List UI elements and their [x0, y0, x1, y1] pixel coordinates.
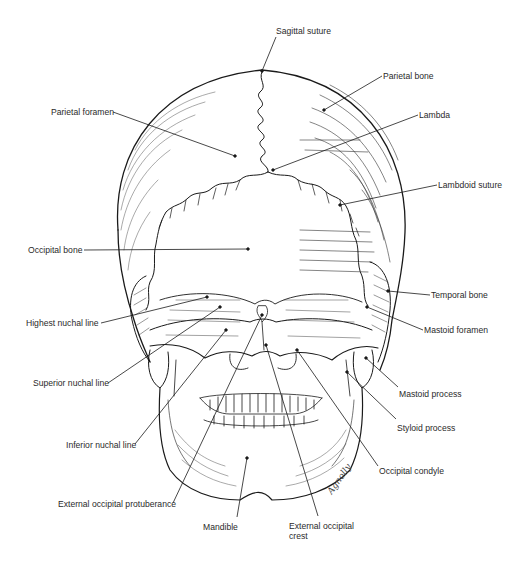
label-lambda: Lambda [419, 110, 450, 120]
leader-lambdoid-suture [340, 185, 437, 205]
anchor-dot-lambda [272, 169, 275, 172]
leader-mastoid-process [366, 358, 398, 387]
anchor-dot-mandible [246, 457, 249, 460]
leader-external-occipital-protuberance [173, 315, 262, 503]
leader-lambda [273, 115, 418, 170]
label-lambdoid-suture: Lambdoid suture [438, 180, 502, 190]
anchor-dot-sagittal-suture [261, 70, 264, 73]
label-parietal-bone: Parietal bone [383, 71, 434, 81]
label-temporal-bone: Temporal bone [431, 290, 488, 300]
sagittal-suture-line [258, 72, 268, 172]
anchor-dot-parietal-bone [323, 109, 326, 112]
anchor-dot-styloid-process [346, 371, 349, 374]
label-highest-nuchal-line: Highest nuchal line [26, 318, 99, 328]
leader-lines [84, 37, 437, 517]
anchor-dot-external-occipital-protuberance [261, 314, 264, 317]
leader-temporal-bone [388, 291, 430, 295]
anchor-dot-highest-nuchal-line [206, 296, 209, 299]
label-mandible: Mandible [203, 522, 238, 532]
label-mastoid-foramen: Mastoid foramen [424, 325, 488, 335]
anchor-dot-superior-nuchal-line [219, 306, 222, 309]
anchor-dot-lambdoid-suture [339, 204, 342, 207]
label-occipital-bone: Occipital bone [28, 245, 82, 255]
label-superior-nuchal-line: Superior nuchal line [33, 378, 109, 388]
highest-nuchal-ridge [160, 294, 362, 304]
leader-highest-nuchal-line [101, 297, 207, 323]
anchor-dot-occipital-bone [247, 248, 250, 251]
right-mastoid-process [353, 350, 373, 388]
leader-inferior-nuchal-line [135, 330, 226, 444]
leader-superior-nuchal-line [108, 307, 220, 383]
leader-sagittal-suture [262, 37, 276, 71]
leader-mandible [237, 458, 247, 517]
anchor-dot-parietal-foramen [234, 155, 237, 158]
anchor-dot-inferior-nuchal-line [225, 329, 228, 332]
lambdoid-suture-line [146, 172, 268, 310]
anchor-dot-temporal-bone [387, 290, 390, 293]
label-occipital-condyle: Occipital condyle [379, 466, 444, 476]
anchor-dot-occipital-condyle [296, 349, 299, 352]
label-inferior-nuchal-line: Inferior nuchal line [66, 440, 136, 450]
label-external-occipital-crest: External occipital crest [289, 521, 359, 541]
leader-external-occipital-crest [266, 345, 318, 516]
cranium-outline [118, 70, 406, 370]
anchor-dot-external-occipital-crest [265, 344, 268, 347]
leader-parietal-foramen [113, 112, 235, 156]
left-mastoid-process [148, 350, 168, 388]
label-parietal-foramen: Parietal foramen [51, 107, 114, 117]
leader-occipital-condyle [297, 350, 378, 466]
leader-occipital-bone [84, 249, 248, 250]
teeth [200, 394, 322, 429]
skull-illustration [0, 0, 529, 563]
label-external-occipital-protuberance: External occipital protuberance [58, 499, 176, 509]
anchor-dot-mastoid-foramen [366, 306, 369, 309]
anchor-dot-mastoid-process [365, 357, 368, 360]
label-mastoid-process: Mastoid process [399, 389, 462, 399]
label-sagittal-suture: Sagittal suture [276, 26, 331, 36]
label-styloid-process: Styloid process [397, 423, 455, 433]
skull-posterior-diagram: Sagittal suture Parietal bone Parietal f… [0, 0, 529, 563]
